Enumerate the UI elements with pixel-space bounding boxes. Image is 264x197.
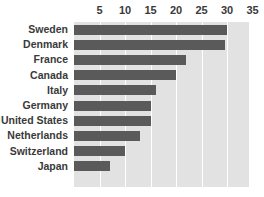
bar-row	[74, 22, 249, 37]
bar	[74, 146, 125, 156]
bar-row	[74, 83, 249, 98]
category-label-column: SwedenDenmarkFranceCanadaItalyGermanyUni…	[0, 22, 72, 187]
category-label: Denmark	[0, 37, 72, 52]
x-axis-tick-label: 25	[195, 4, 207, 16]
category-label: Japan	[0, 159, 72, 174]
category-label: Netherlands	[0, 128, 72, 143]
bar	[74, 131, 140, 141]
bar	[74, 161, 110, 171]
x-axis-tick-label: 15	[144, 4, 156, 16]
bar	[74, 40, 225, 50]
x-axis-tick-strip: 5101520253035	[0, 0, 264, 22]
bar-row	[74, 113, 249, 128]
bar-row	[74, 144, 249, 159]
bar	[74, 101, 151, 111]
bar-series-layer	[74, 22, 249, 187]
plot-area	[74, 22, 249, 187]
bar	[74, 70, 176, 80]
bar-row	[74, 52, 249, 67]
bar-row	[74, 159, 249, 174]
x-axis-tick-label: 35	[246, 4, 258, 16]
bar	[74, 85, 156, 95]
bar	[74, 55, 186, 65]
category-label: Sweden	[0, 22, 72, 37]
bar-row	[74, 98, 249, 113]
category-label: United States	[0, 113, 72, 128]
bar-row	[74, 68, 249, 83]
bar	[74, 25, 227, 35]
category-label: France	[0, 52, 72, 67]
x-axis-tick-label: 10	[119, 4, 131, 16]
x-axis-tick-label: 20	[170, 4, 182, 16]
bar-row	[74, 128, 249, 143]
x-axis-tick-label: 30	[221, 4, 233, 16]
category-label: Switzerland	[0, 144, 72, 159]
bar-row	[74, 37, 249, 52]
bar-chart: 5101520253035 SwedenDenmarkFranceCanadaI…	[0, 0, 264, 197]
x-axis-tick-label: 5	[96, 4, 102, 16]
category-label: Canada	[0, 68, 72, 83]
category-label: Italy	[0, 83, 72, 98]
bar	[74, 116, 151, 126]
category-label: Germany	[0, 98, 72, 113]
